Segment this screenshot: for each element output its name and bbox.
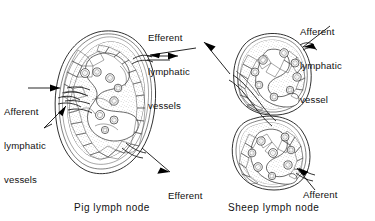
- arrow-efferent-sheep: [204, 42, 230, 74]
- pig-lymph-node-drawing: [55, 31, 155, 174]
- arrow-efferent-pig-upper: [147, 52, 178, 60]
- lymph-node-figure: [0, 0, 375, 221]
- arrow-efferent-pig-lower: [142, 148, 170, 174]
- caption-sheep-lymph-node: Sheep lymph node: [228, 202, 319, 213]
- caption-pig-lymph-node: Pig lymph node: [74, 202, 150, 213]
- sheep-lymph-node-drawing: [229, 33, 311, 190]
- arrow-afferent-sheep-lower: [297, 168, 315, 190]
- arrow-afferent-sheep-upper: [303, 26, 330, 49]
- arrow-afferent-pig-upper: [28, 84, 60, 91]
